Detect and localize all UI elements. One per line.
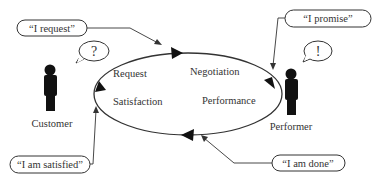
phase-negotiation-label: Negotiation: [190, 66, 240, 77]
workflow-loop-diagram: Request Negotiation Satisfaction Perform…: [0, 0, 381, 184]
arrowhead-satisfaction-icon: [181, 129, 194, 141]
speech-request-connector: [87, 28, 158, 43]
speech-request-text: “I request”: [29, 23, 75, 34]
phase-performance-label: Performance: [202, 95, 256, 106]
workflow-loop: [94, 53, 282, 135]
arrowhead-performance-icon: [264, 77, 275, 89]
speech-done-connector: [204, 138, 272, 163]
question-mark-icon: ?: [91, 44, 97, 59]
speech-satisfied-text: “I am satisfied”: [17, 159, 83, 170]
customer-label: Customer: [32, 118, 73, 129]
speech-satisfied-connector: [90, 110, 96, 164]
phase-satisfaction-label: Satisfaction: [113, 96, 163, 107]
exclamation-mark-icon: !: [316, 44, 321, 59]
customer-figure-icon: [44, 65, 57, 112]
arrowhead-negotiation-icon: [171, 47, 183, 59]
performer-figure-icon: [285, 69, 298, 116]
speech-done-text: “I am done”: [282, 158, 334, 169]
phase-request-label: Request: [113, 68, 147, 79]
connector-arrow-icon: [270, 63, 276, 70]
performer-label: Performer: [270, 121, 313, 132]
speech-promise-connector: [273, 18, 285, 66]
speech-promise-text: “I promise”: [303, 13, 353, 24]
